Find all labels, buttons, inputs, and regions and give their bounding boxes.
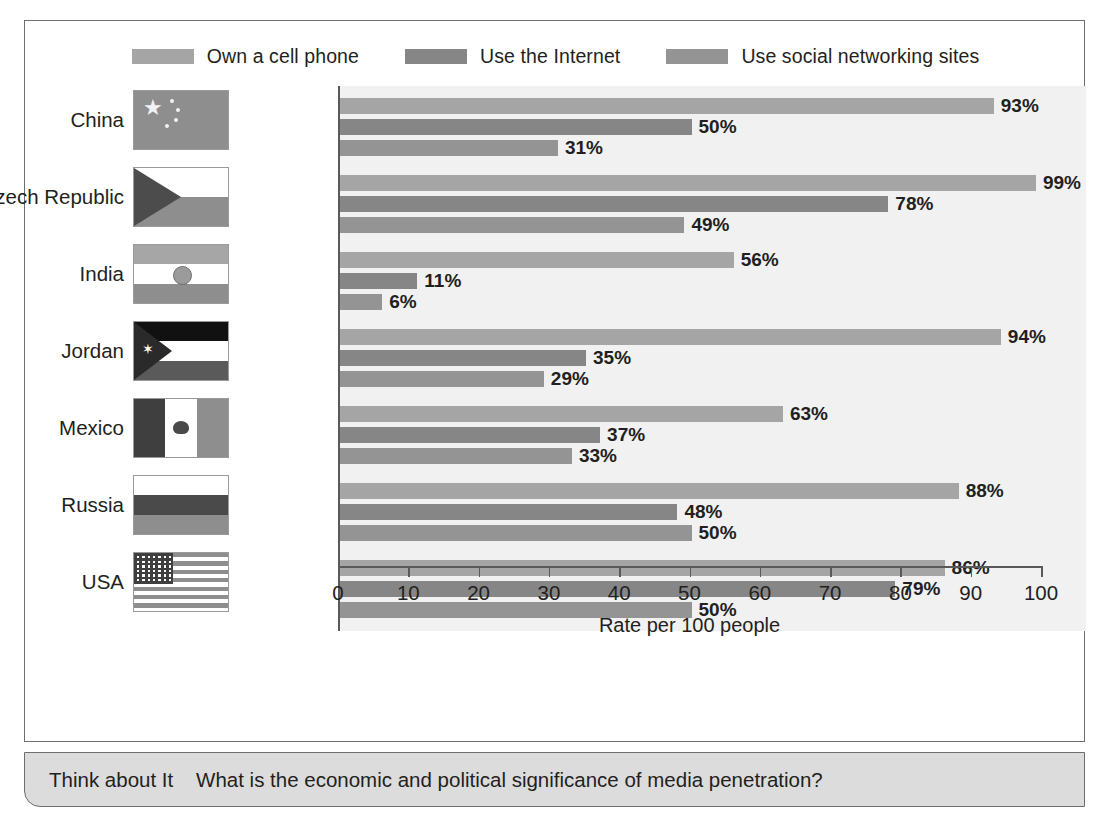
x-tick	[549, 566, 551, 577]
bar-row: 99%	[340, 175, 1086, 191]
x-tick-label: 60	[748, 581, 771, 605]
bar-value-label: 93%	[994, 95, 1039, 117]
bar	[340, 119, 692, 135]
bar-row: 11%	[340, 273, 1086, 289]
flag-czech-republic-icon	[133, 167, 229, 227]
plot-area: 93%50%31%99%78%49%56%11%6%94%35%29%63%37…	[338, 86, 1086, 631]
x-tick-label: 100	[1024, 581, 1058, 605]
bar-row: 86%	[340, 560, 1086, 576]
bar-value-label: 63%	[783, 403, 828, 425]
bar-group: 88%48%50%	[340, 483, 1086, 546]
legend-label: Use the Internet	[480, 45, 620, 68]
bar-row: 94%	[340, 329, 1086, 345]
country-label: USA	[82, 570, 124, 594]
x-tick	[971, 566, 973, 577]
flag-stripe	[134, 587, 228, 591]
legend-swatch-icon	[132, 49, 194, 64]
country-label: Czech Republic	[0, 185, 124, 209]
x-tick	[1041, 566, 1043, 577]
chart-legend: Own a cell phone Use the Internet Use so…	[25, 45, 1086, 68]
bar	[340, 406, 783, 422]
flag-stripe	[134, 595, 228, 599]
x-tick-label: 10	[397, 581, 420, 605]
x-tick-label: 70	[819, 581, 842, 605]
bar-row: 63%	[340, 406, 1086, 422]
x-tick	[830, 566, 832, 577]
bar-value-label: 48%	[677, 501, 722, 523]
x-tick	[690, 566, 692, 577]
bar-value-label: 50%	[692, 522, 737, 544]
bar-row: 88%	[340, 483, 1086, 499]
bar-value-label: 78%	[888, 193, 933, 215]
bar	[340, 329, 1001, 345]
bar-row: 33%	[340, 448, 1086, 464]
bar-group: 99%78%49%	[340, 175, 1086, 238]
bar	[340, 98, 994, 114]
flag-russia-icon	[133, 475, 229, 535]
bar-row: 50%	[340, 119, 1086, 135]
bar	[340, 294, 382, 310]
bar-value-label: 86%	[945, 557, 990, 579]
bar	[340, 350, 586, 366]
chart-body: China ★ Czech Republic India	[25, 86, 1086, 656]
bar-value-label: 94%	[1001, 326, 1046, 348]
bar	[340, 560, 945, 576]
bar	[340, 483, 959, 499]
bar-row: 49%	[340, 217, 1086, 233]
bar	[340, 217, 684, 233]
flag-stripe	[134, 603, 228, 607]
bar-value-label: 6%	[382, 291, 416, 313]
country-row-jordan: Jordan ✶	[25, 321, 229, 381]
footer-question: What is the economic and political signi…	[196, 768, 823, 791]
bar-value-label: 35%	[586, 347, 631, 369]
footer-lead-label: Think about It	[49, 768, 173, 791]
x-tick	[479, 566, 481, 577]
x-tick-label: 40	[608, 581, 631, 605]
x-tick	[619, 566, 621, 577]
flag-usa-icon	[133, 552, 229, 612]
bar	[340, 252, 734, 268]
bar	[340, 175, 1036, 191]
bar-value-label: 88%	[959, 480, 1004, 502]
country-row-mexico: Mexico	[25, 398, 229, 458]
country-label: India	[80, 262, 124, 286]
country-label: Russia	[61, 493, 124, 517]
bar-group: 63%37%33%	[340, 406, 1086, 469]
bar-value-label: 56%	[734, 249, 779, 271]
bar-value-label: 49%	[684, 214, 729, 236]
country-row-usa: USA	[25, 552, 229, 612]
country-label: China	[70, 108, 124, 132]
bar-row: 50%	[340, 525, 1086, 541]
bar	[340, 504, 677, 520]
footer-text: Think about It What is the economic and …	[25, 768, 823, 792]
bar-value-label: 29%	[544, 368, 589, 390]
flag-jordan-icon: ✶	[133, 321, 229, 381]
bar-row: 93%	[340, 98, 1086, 114]
x-axis-title: Rate per 100 people	[338, 614, 1041, 637]
bar-row: 6%	[340, 294, 1086, 310]
legend-swatch-icon	[405, 49, 467, 64]
bar-row: 37%	[340, 427, 1086, 443]
legend-label: Use social networking sites	[741, 45, 979, 68]
x-tick-label: 80	[889, 581, 912, 605]
flag-canton	[134, 553, 173, 584]
bar	[340, 427, 600, 443]
legend-swatch-icon	[666, 49, 728, 64]
bar	[340, 448, 572, 464]
legend-item-use-social-networking-sites: Use social networking sites	[666, 45, 979, 68]
bar-value-label: 50%	[692, 116, 737, 138]
bar-value-label: 33%	[572, 445, 617, 467]
flag-china-icon: ★	[133, 90, 229, 150]
x-tick	[408, 566, 410, 577]
bar	[340, 196, 888, 212]
figure-frame: Own a cell phone Use the Internet Use so…	[24, 20, 1085, 742]
country-label: Mexico	[59, 416, 124, 440]
country-row-russia: Russia	[25, 475, 229, 535]
x-tick-label: 50	[678, 581, 701, 605]
x-tick	[760, 566, 762, 577]
bar-row: 31%	[340, 140, 1086, 156]
x-tick-label: 20	[467, 581, 490, 605]
flag-india-icon	[133, 244, 229, 304]
x-tick-label: 90	[959, 581, 982, 605]
bar-value-label: 31%	[558, 137, 603, 159]
